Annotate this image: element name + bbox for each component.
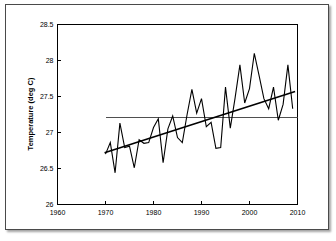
y-tick-marks	[58, 25, 62, 205]
x-tick-label: 2010	[290, 209, 306, 216]
y-tick-label: 27	[46, 129, 54, 136]
linear-trend-line	[105, 91, 296, 152]
chart-plot-area: 2626.52727.52828.5 196019701980199020002…	[0, 0, 336, 241]
x-tick-label: 1970	[98, 209, 114, 216]
axis-frame	[58, 25, 298, 205]
y-tick-label: 27.5	[40, 93, 54, 100]
x-tick-label: 1980	[146, 209, 162, 216]
x-tick-label: 1960	[50, 209, 66, 216]
x-tick-marks	[58, 201, 298, 205]
y-tick-label: 28	[46, 57, 54, 64]
chart-svg: 2626.52727.52828.5 196019701980199020002…	[0, 0, 336, 241]
y-tick-label: 26	[46, 201, 54, 208]
y-tick-labels: 2626.52727.52828.5	[40, 21, 54, 208]
chart-axes	[58, 25, 298, 205]
x-tick-label: 1990	[194, 209, 210, 216]
x-tick-label: 2000	[242, 209, 258, 216]
x-tick-labels: 196019701980199020002010	[50, 209, 306, 216]
y-tick-label: 28.5	[40, 21, 54, 28]
y-tick-label: 26.5	[40, 165, 54, 172]
temperature-series-line	[106, 53, 293, 173]
chart-data-series	[105, 53, 298, 173]
y-axis-title: Temperature (deg C)	[26, 77, 35, 150]
